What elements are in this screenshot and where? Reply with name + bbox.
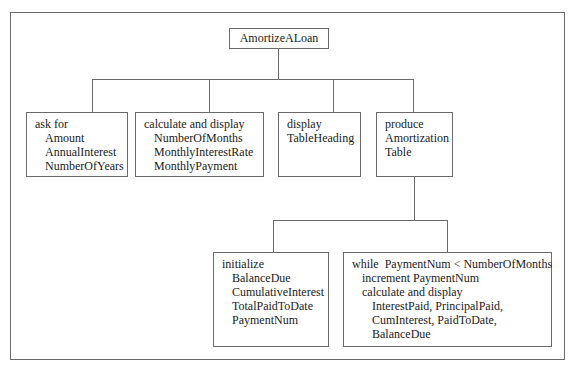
node-line: MonthlyPayment	[144, 159, 263, 173]
connector-to-ask-for	[92, 79, 93, 112]
node-line: InterestPaid, PrincipalPaid,	[352, 299, 551, 313]
node-calculate-and-display: calculate and display NumberOfMonths Mon…	[135, 112, 264, 177]
node-line: MonthlyInterestRate	[144, 145, 263, 159]
connector-to-while-loop	[447, 220, 448, 252]
connector-root-down	[278, 49, 279, 80]
node-line: increment PaymentNum	[352, 271, 551, 285]
node-line: BalanceDue	[352, 327, 551, 341]
connector-to-calculate	[209, 79, 210, 112]
node-initialize: initialize BalanceDue CumulativeInterest…	[213, 252, 329, 347]
node-while-loop: while PaymentNum < NumberOfMonths increm…	[343, 252, 552, 347]
node-line: PaymentNum	[222, 313, 328, 327]
connector-level1-bus	[92, 79, 414, 80]
node-line: initialize	[222, 257, 328, 271]
node-line: TableHeading	[287, 131, 360, 145]
node-label: AmortizeALoan	[240, 31, 319, 45]
node-line: ask for	[35, 117, 127, 131]
node-line: Amount	[35, 131, 127, 145]
node-line: produce	[385, 117, 452, 131]
node-line: CumInterest, PaidToDate,	[352, 313, 551, 327]
connector-to-initialize	[273, 220, 274, 252]
connector-to-produce	[413, 79, 414, 112]
node-line: while PaymentNum < NumberOfMonths	[352, 257, 551, 271]
node-line: Table	[385, 145, 452, 159]
connector-produce-down	[414, 177, 415, 221]
node-line: display	[287, 117, 360, 131]
node-line: AnnualInterest	[35, 145, 127, 159]
node-line: calculate and display	[352, 285, 551, 299]
node-line: NumberOfYears	[35, 159, 127, 173]
node-line: NumberOfMonths	[144, 131, 263, 145]
connector-level2-bus	[273, 220, 448, 221]
node-line: CumulativeInterest	[222, 285, 328, 299]
node-line: BalanceDue	[222, 271, 328, 285]
node-ask-for: ask for Amount AnnualInterest NumberOfYe…	[26, 112, 128, 177]
node-line: Amortization	[385, 131, 452, 145]
node-produce: produce Amortization Table	[376, 112, 453, 177]
node-line: calculate and display	[144, 117, 263, 131]
node-line: TotalPaidToDate	[222, 299, 328, 313]
node-amortize-a-loan: AmortizeALoan	[229, 28, 329, 49]
connector-to-display	[333, 79, 334, 112]
node-display: display TableHeading	[278, 112, 361, 177]
